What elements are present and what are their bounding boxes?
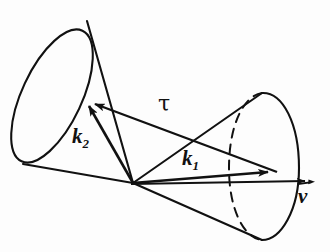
label-tau: τ [158, 93, 170, 115]
label-v: v [298, 186, 307, 207]
label-k2-symbol: k [72, 124, 83, 148]
label-k1: k1 [182, 148, 199, 172]
label-k1-subscript: 1 [193, 158, 200, 173]
label-v-symbol: v [298, 184, 307, 208]
left-cone-lower-generator [23, 164, 133, 183]
left-cone [0, 18, 133, 183]
right-cone-base-front-arc [262, 93, 299, 240]
left-cone-upper-generator [87, 21, 133, 183]
label-k1-symbol: k [182, 146, 193, 170]
right-cone-base-back-arc-dashed [229, 93, 262, 240]
figure-container: k2 k1 τ v [0, 0, 330, 252]
label-v-wrap: v [298, 186, 307, 207]
label-k2-subscript: 2 [83, 136, 90, 151]
right-cone-lower-generator [133, 183, 262, 240]
label-k2: k2 [72, 126, 89, 150]
cone-diagram-svg [0, 0, 330, 252]
vector-k2 [89, 106, 133, 183]
